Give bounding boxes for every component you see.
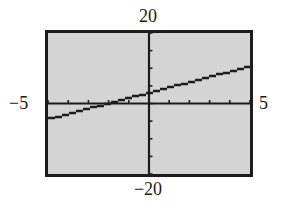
- ymax-label: 20: [0, 7, 282, 25]
- plot-area: [48, 33, 250, 174]
- ymin-label: −20: [0, 180, 282, 198]
- calculator-screen: [45, 30, 253, 177]
- xmax-label: 5: [259, 94, 268, 112]
- xmin-label: −5: [9, 94, 28, 112]
